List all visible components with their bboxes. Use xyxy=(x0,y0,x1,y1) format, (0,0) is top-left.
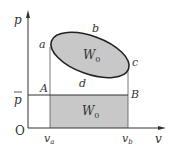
origin-label: O xyxy=(15,124,25,138)
point-a-label: a xyxy=(39,38,46,51)
point-c-label: c xyxy=(132,56,138,69)
point-b-label: b xyxy=(92,22,99,35)
y-axis-arrow-icon xyxy=(26,10,30,18)
vb-tick-label: vb xyxy=(122,132,133,146)
point-A-label: A xyxy=(39,82,48,95)
x-axis-arrow-icon xyxy=(158,126,166,130)
mean-pressure-label: p xyxy=(14,93,22,107)
point-B-label: B xyxy=(130,88,139,101)
x-axis-label: v xyxy=(155,132,162,146)
y-axis-label: p xyxy=(14,13,22,27)
point-d-label: d xyxy=(79,77,86,90)
pv-diagram: p v O a b c d A B p W0 W0 va vb xyxy=(0,0,174,152)
va-tick-label: va xyxy=(44,132,54,146)
